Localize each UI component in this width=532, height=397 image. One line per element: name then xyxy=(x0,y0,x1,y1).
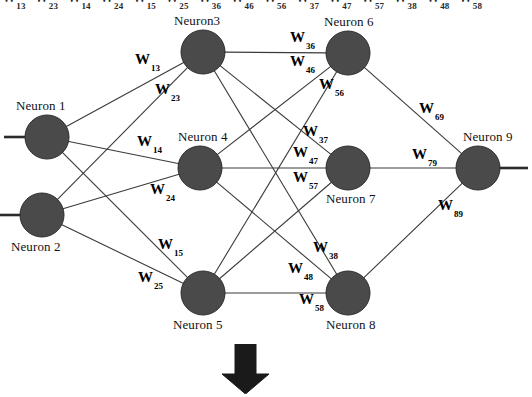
weight-label-w69: W69 xyxy=(419,101,443,119)
weight-label-w24: W24 xyxy=(150,182,174,200)
node-n7 xyxy=(326,146,370,190)
node-n3 xyxy=(181,30,225,74)
edge-n1-n4 xyxy=(68,141,180,164)
edge-n1-n5 xyxy=(62,152,188,278)
node-label-n5: Neuron 5 xyxy=(173,317,223,333)
weight-label-w25: W25 xyxy=(138,270,162,288)
node-n5 xyxy=(181,271,225,315)
node-label-n1: Neuron 1 xyxy=(16,98,66,114)
node-n9 xyxy=(456,146,500,190)
node-label-n7: Neuron 7 xyxy=(326,191,376,207)
edge-n6-n9 xyxy=(364,67,463,154)
node-label-n9: Neuron 9 xyxy=(463,129,513,145)
node-label-n2: Neuron 2 xyxy=(11,239,61,255)
neural-network-diagram: W13W23W14W24W15W25W36W46W56W37W47W57W38W… xyxy=(0,0,532,397)
node-label-n3: Neuron3 xyxy=(174,13,220,29)
weight-label-w38: W38 xyxy=(313,240,337,258)
weight-label-w89: W89 xyxy=(438,198,462,216)
weight-label-w46: W46 xyxy=(290,54,314,72)
node-n8 xyxy=(326,271,370,315)
weight-label-w36: W36 xyxy=(290,30,314,48)
weight-label-w23: W23 xyxy=(155,82,179,100)
node-n6 xyxy=(326,31,370,75)
weight-label-w47: W47 xyxy=(293,145,317,163)
edge-n3-n6 xyxy=(224,52,327,53)
node-label-n6: Neuron 6 xyxy=(324,14,374,30)
down-arrow-icon xyxy=(221,344,270,394)
weight-label-w58: W58 xyxy=(299,292,323,310)
weight-label-w15: W15 xyxy=(158,237,182,255)
weight-label-w13: W13 xyxy=(135,52,159,70)
nodes-group xyxy=(20,30,500,315)
weight-label-w56: W56 xyxy=(319,77,343,95)
weight-label-w37: W37 xyxy=(303,124,327,142)
node-n4 xyxy=(178,146,222,190)
node-label-n4: Neuron 4 xyxy=(178,129,228,145)
weight-label-w57: W57 xyxy=(293,170,317,188)
node-n2 xyxy=(20,193,64,237)
weight-label-w14: W14 xyxy=(137,134,161,152)
weight-label-w79: W79 xyxy=(412,147,436,165)
node-n1 xyxy=(25,115,69,159)
edges-group xyxy=(57,52,463,293)
node-label-n8: Neuron 8 xyxy=(326,317,376,333)
weight-label-w48: W48 xyxy=(288,261,312,279)
